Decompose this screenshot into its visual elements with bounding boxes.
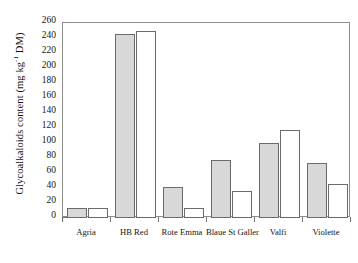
x-axis-tick-mark [206,217,207,222]
y-axis-tick-label: 120 [22,120,56,130]
x-axis-category-label: Blaue St Galler [206,227,254,237]
bar [211,160,231,219]
x-axis-tick-mark [110,217,111,222]
bar [232,191,252,218]
y-axis-tick-label: 20 [22,195,56,205]
bar [280,130,300,218]
y-axis-tick-label: 220 [22,45,56,55]
bar [328,184,348,219]
bar [67,208,87,218]
y-axis-tick-label: 80 [22,150,56,160]
y-axis-tick-label: 100 [22,135,56,145]
x-axis-tick-mark [158,217,159,222]
bar [136,31,156,218]
y-axis-tick-label: 240 [22,30,56,40]
x-axis-tick-mark [302,217,303,222]
x-axis-tick-mark [254,217,255,222]
bar [184,208,204,218]
x-axis-tick-mark [350,217,351,222]
x-axis-category-label: Agria [62,227,110,237]
plot-area [62,22,350,217]
x-axis-category-label: HB Red [110,227,158,237]
y-axis-tick-label: 160 [22,90,56,100]
bar [115,34,135,219]
y-axis-tick-label: 180 [22,75,56,85]
bar [163,187,183,219]
y-axis-tick-label: 260 [22,15,56,25]
x-axis-tick-mark [62,217,63,222]
y-axis-tick-label: 40 [22,180,56,190]
x-axis-category-label: Rote Emma [158,227,206,237]
y-axis-title-superscript: -1 [12,56,20,62]
bar [307,163,327,218]
chart-container: Glycoalkaloids content (mg kg-1 DM) 0204… [0,0,358,263]
y-axis-tick-label: 200 [22,60,56,70]
x-axis-category-label: Violette [302,227,350,237]
y-axis-tick-label: 140 [22,105,56,115]
y-axis-tick-label: 60 [22,165,56,175]
bar [88,208,108,219]
y-axis-tick-label: 0 [22,210,56,220]
bar [259,143,279,218]
x-axis-category-label: Valfi [254,227,302,237]
